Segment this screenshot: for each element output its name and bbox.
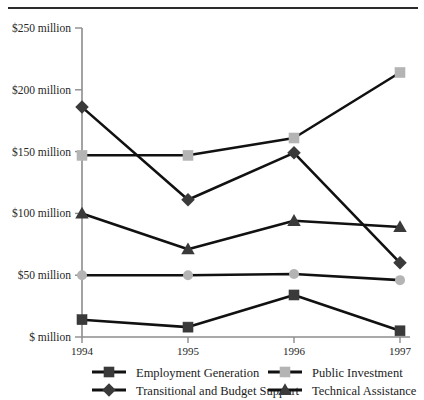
x-tick-label: 1994 bbox=[71, 345, 94, 357]
marker-circle bbox=[183, 270, 193, 280]
chart-legend: Employment GenerationPublic InvestmentTr… bbox=[92, 366, 417, 398]
marker-square bbox=[77, 150, 87, 160]
marker-square bbox=[395, 67, 405, 77]
legend-item-public-investment[interactable]: Public Investment bbox=[268, 366, 403, 380]
series-line bbox=[82, 213, 400, 249]
series-transitional-and-budget-support bbox=[75, 100, 407, 269]
series-technical-assistance bbox=[75, 207, 407, 255]
series-line bbox=[82, 295, 400, 331]
line-chart-plot: $ million$50 million$100 million$150 mil… bbox=[0, 0, 424, 400]
series-unlabeled-baseline-series bbox=[77, 269, 405, 285]
y-tick-label: $50 million bbox=[18, 269, 72, 281]
x-axis-tick-labels: 1994199519961997 bbox=[71, 345, 412, 357]
series-line bbox=[82, 274, 400, 280]
marker-square bbox=[289, 290, 299, 300]
x-tick-label: 1997 bbox=[389, 345, 412, 357]
y-tick-label: $ million bbox=[29, 331, 71, 343]
y-axis-group: $ million$50 million$100 million$150 mil… bbox=[12, 22, 82, 343]
legend-label: Public Investment bbox=[312, 366, 403, 380]
x-tick-label: 1995 bbox=[177, 345, 200, 357]
marker-square bbox=[183, 150, 193, 160]
y-tick-label: $100 million bbox=[12, 207, 71, 219]
chart-figure: $ million$50 million$100 million$150 mil… bbox=[0, 0, 424, 400]
series-employment-generation bbox=[77, 290, 405, 336]
y-tick-label: $250 million bbox=[12, 22, 71, 34]
y-axis-tick-labels: $ million$50 million$100 million$150 mil… bbox=[12, 22, 71, 343]
data-series-layer bbox=[75, 67, 407, 335]
y-tick-label: $200 million bbox=[12, 84, 71, 96]
marker-circle bbox=[395, 275, 405, 285]
series-line bbox=[82, 107, 400, 263]
marker-square bbox=[280, 367, 290, 377]
y-axis-ticks bbox=[75, 28, 82, 337]
series-line bbox=[82, 72, 400, 155]
y-tick-label: $150 million bbox=[12, 146, 71, 158]
marker-circle bbox=[289, 269, 299, 279]
marker-square bbox=[183, 322, 193, 332]
legend-item-employment-generation[interactable]: Employment Generation bbox=[92, 366, 260, 380]
marker-square bbox=[395, 326, 405, 336]
x-tick-label: 1996 bbox=[283, 345, 306, 357]
marker-triangle bbox=[75, 207, 89, 219]
marker-square bbox=[104, 367, 114, 377]
legend-label: Technical Assistance bbox=[312, 384, 417, 398]
x-axis-ticks bbox=[82, 337, 400, 343]
marker-square bbox=[289, 133, 299, 143]
marker-square bbox=[77, 315, 87, 325]
marker-diamond bbox=[102, 383, 116, 397]
marker-circle bbox=[77, 270, 87, 280]
x-axis-group: 1994199519961997 bbox=[71, 337, 412, 357]
legend-label: Employment Generation bbox=[136, 366, 260, 380]
